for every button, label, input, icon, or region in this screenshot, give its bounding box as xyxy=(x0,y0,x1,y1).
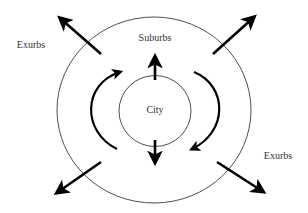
city-label: City xyxy=(146,104,163,115)
arrow-southeast-icon xyxy=(217,162,262,191)
suburbs-label: Suburbs xyxy=(139,32,172,43)
arrow-northeast-icon xyxy=(213,18,253,54)
urban-sprawl-diagram: City Suburbs Exurbs Exurbs xyxy=(0,0,308,213)
arrow-southwest-icon xyxy=(58,162,101,192)
curved-arrow-right-icon xyxy=(192,72,219,149)
exurbs-right-label: Exurbs xyxy=(264,150,292,161)
exurbs-left-label: Exurbs xyxy=(17,39,45,50)
curved-arrow-left-icon xyxy=(91,72,120,149)
